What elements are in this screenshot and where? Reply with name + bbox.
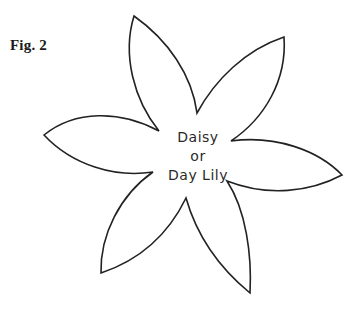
flower-name-line-1: Daisy [150, 128, 246, 147]
flower-name-label: Daisy or Day Lily [150, 128, 246, 185]
flower-name-line-3: Day Lily [150, 166, 246, 185]
flower-name-line-2: or [150, 147, 246, 166]
figure-canvas: Fig. 2 Daisy or Day Lily [0, 0, 364, 309]
